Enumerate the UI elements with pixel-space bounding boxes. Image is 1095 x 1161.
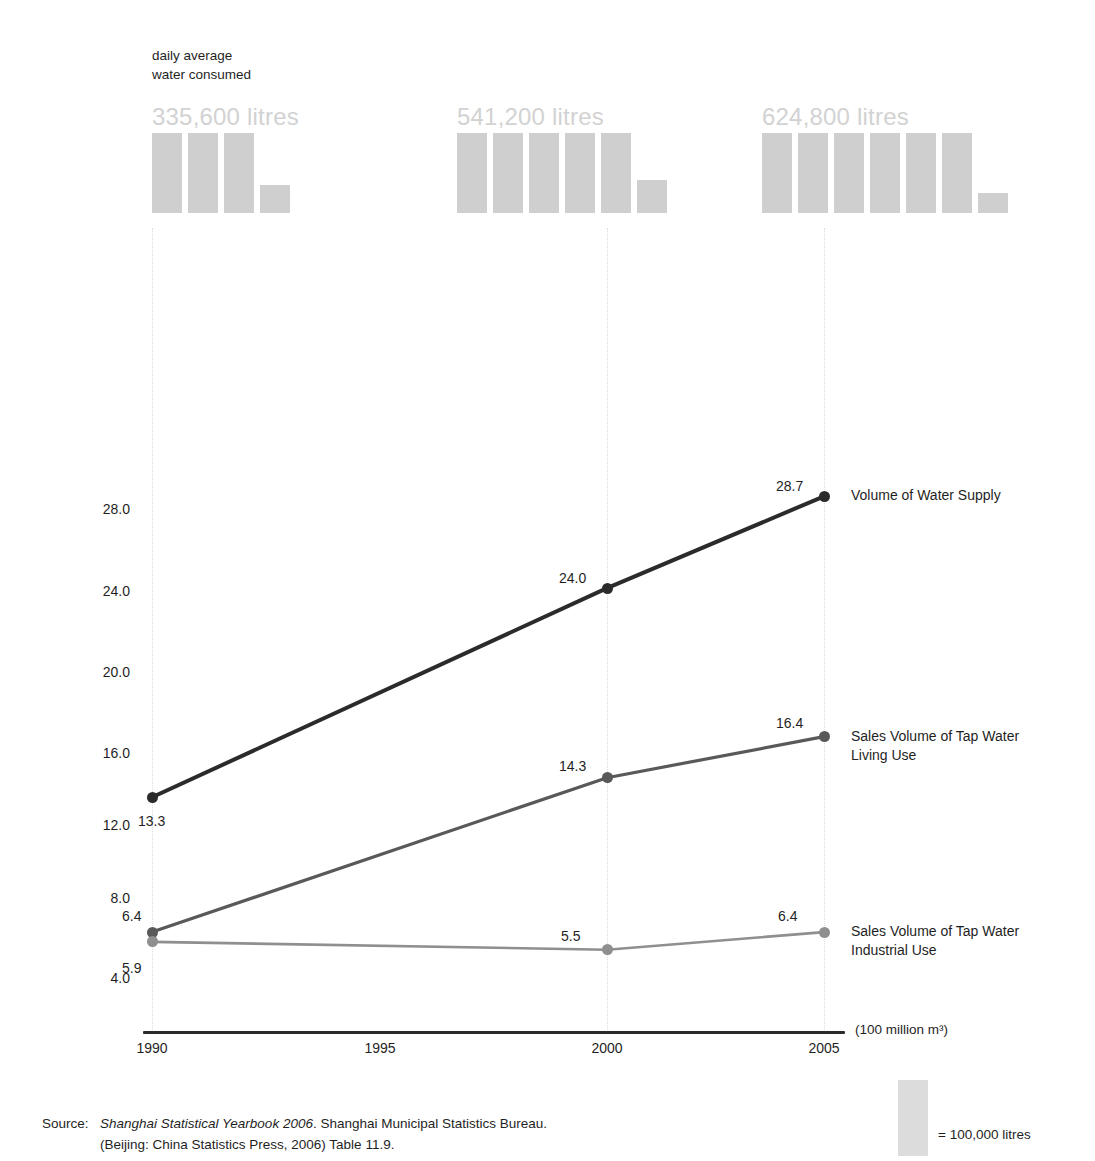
pictogram-bar-full	[870, 133, 900, 213]
pictogram-bar-partial	[637, 180, 667, 213]
y-tick-label: 28.0	[50, 501, 130, 517]
pictogram-bars	[457, 133, 667, 213]
x-tick-label: 1990	[112, 1040, 192, 1056]
pictogram-amount-label: 541,200 litres	[457, 103, 604, 131]
pictogram-bars	[152, 133, 290, 213]
pictogram-amount-label: 624,800 litres	[762, 103, 909, 131]
pictogram-bars	[762, 133, 1008, 213]
y-tick-label: 4.0	[50, 970, 130, 986]
source-key: Source:	[42, 1113, 100, 1134]
data-point	[819, 927, 830, 938]
data-point-label: 5.9	[122, 960, 141, 976]
axis-unit-label: (100 million m³)	[855, 1022, 948, 1037]
data-point-label: 5.5	[561, 928, 580, 944]
x-tick-label: 2000	[567, 1040, 647, 1056]
data-point-label: 16.4	[776, 715, 803, 731]
data-point	[819, 491, 830, 502]
pictogram-bar-full	[762, 133, 792, 213]
data-point	[602, 772, 613, 783]
pictogram-bar-full	[188, 133, 218, 213]
pictogram-amount-label: 335,600 litres	[152, 103, 299, 131]
data-point-label: 6.4	[778, 908, 797, 924]
pictogram-unit-text: = 100,000 litres	[938, 1127, 1031, 1142]
data-point	[147, 927, 158, 938]
source-line2: (Beijing: China Statistics Press, 2006) …	[100, 1134, 742, 1155]
data-point-label: 28.7	[776, 478, 803, 494]
pictogram-bar-full	[152, 133, 182, 213]
pictogram-bar-partial	[260, 185, 290, 213]
y-axis-ticks: 28.024.020.016.012.08.04.0	[20, 0, 130, 1161]
gridline-2005	[824, 228, 826, 1032]
series-legend-label: Sales Volume of Tap Water Living Use	[851, 727, 1019, 765]
pictogram-bar-full	[834, 133, 864, 213]
pictogram-bar-full	[601, 133, 631, 213]
pictogram-bar-full	[565, 133, 595, 213]
data-point-label: 24.0	[559, 570, 586, 586]
data-point	[602, 583, 613, 594]
pictogram-bar-partial	[978, 193, 1008, 213]
y-tick-label: 24.0	[50, 583, 130, 599]
source-note: Source:Shanghai Statistical Yearbook 200…	[42, 1113, 742, 1155]
y-tick-label: 8.0	[50, 890, 130, 906]
data-point	[819, 731, 830, 742]
pictogram-bar-full	[906, 133, 936, 213]
data-point-label: 13.3	[138, 813, 165, 829]
y-tick-label: 20.0	[50, 664, 130, 680]
pictogram-bar-full	[224, 133, 254, 213]
series-line-2	[152, 932, 824, 950]
pictogram-bar-full	[493, 133, 523, 213]
y-tick-label: 12.0	[50, 817, 130, 833]
series-legend-label: Sales Volume of Tap Water Industrial Use	[851, 922, 1019, 960]
series-legend-label: Volume of Water Supply	[851, 486, 1001, 505]
x-tick-label: 2005	[784, 1040, 864, 1056]
pictogram-bar-full	[457, 133, 487, 213]
pictogram-bar-full	[942, 133, 972, 213]
gridline-1990	[152, 228, 154, 1032]
data-point	[147, 936, 158, 947]
data-point-label: 6.4	[122, 908, 141, 924]
data-point	[147, 792, 158, 803]
pictogram-bar-full	[798, 133, 828, 213]
y-tick-label: 16.0	[50, 745, 130, 761]
x-axis-line	[143, 1031, 845, 1034]
gridline-2000	[607, 228, 609, 1032]
series-line-1	[152, 737, 824, 932]
series-line-0	[152, 496, 824, 797]
pictogram-caption: daily average water consumed	[152, 46, 372, 84]
source-publisher: . Shanghai Municipal Statistics Bureau.	[313, 1116, 547, 1131]
data-point-label: 14.3	[559, 758, 586, 774]
x-tick-label: 1995	[340, 1040, 420, 1056]
pictogram-unit-swatch	[898, 1080, 928, 1156]
data-point	[602, 944, 613, 955]
pictogram-bar-full	[529, 133, 559, 213]
source-title: Shanghai Statistical Yearbook 2006	[100, 1116, 313, 1131]
